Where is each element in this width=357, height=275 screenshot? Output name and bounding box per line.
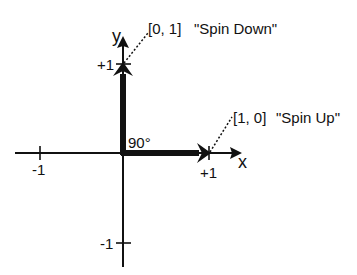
spin-vector-diagram: y x +1 -1 -1 +1 90° [0, 1] "Spin Down" [… <box>0 0 357 275</box>
spin-down-leader-line <box>124 33 148 63</box>
spin-up-name: "Spin Up" <box>276 109 340 126</box>
spin-down-name: "Spin Down" <box>194 20 277 37</box>
y-axis-label: y <box>112 26 121 46</box>
x-axis-label: x <box>238 152 247 172</box>
spin-down-coords: [0, 1] <box>148 20 181 37</box>
y-pos-tick-label: +1 <box>97 56 114 73</box>
angle-label: 90° <box>128 134 151 151</box>
x-pos-tick-label: +1 <box>200 164 217 181</box>
spin-up-coords: [1, 0] <box>233 109 266 126</box>
y-neg-tick-label: -1 <box>100 235 113 252</box>
x-neg-tick-label: -1 <box>32 161 45 178</box>
spin-up-leader-line <box>210 117 232 152</box>
